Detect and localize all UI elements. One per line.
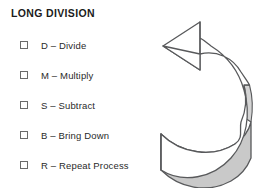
list-item[interactable]: R – Repeat Process xyxy=(0,150,150,180)
empty-checkbox[interactable] xyxy=(20,71,28,79)
empty-checkbox[interactable] xyxy=(20,161,28,169)
empty-checkbox[interactable] xyxy=(20,131,28,139)
list-item[interactable]: D – Divide xyxy=(0,30,150,60)
long-division-worksheet: LONG DIVISION D – Divide M – Multiply S … xyxy=(0,0,263,188)
list-item-label: S – Subtract xyxy=(41,100,95,111)
empty-checkbox[interactable] xyxy=(20,101,28,109)
list-item[interactable]: S – Subtract xyxy=(0,90,150,120)
page-title: LONG DIVISION xyxy=(11,7,95,20)
list-item-label: M – Multiply xyxy=(41,70,93,81)
long-division-steps-list: D – Divide M – Multiply S – Subtract B –… xyxy=(0,30,150,180)
curved-repeat-arrow-svg xyxy=(151,18,263,188)
curved-repeat-arrow-icon xyxy=(151,18,263,188)
list-item-label: B – Bring Down xyxy=(41,130,109,141)
list-item[interactable]: B – Bring Down xyxy=(0,120,150,150)
list-item-label: D – Divide xyxy=(41,40,86,51)
list-item-label: R – Repeat Process xyxy=(41,160,129,171)
empty-checkbox[interactable] xyxy=(20,41,28,49)
list-item[interactable]: M – Multiply xyxy=(0,60,150,90)
